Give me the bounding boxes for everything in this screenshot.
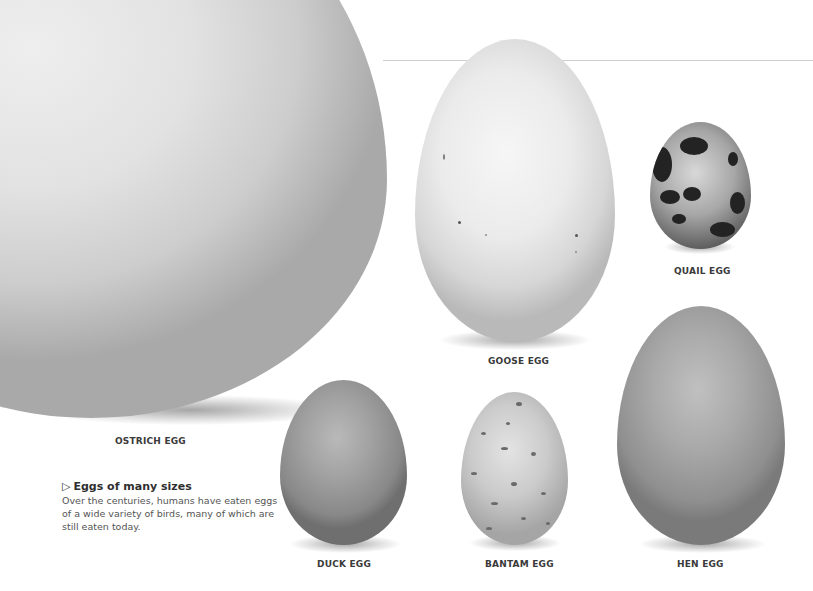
bantam-speck xyxy=(491,502,498,505)
bantam-egg-image xyxy=(461,392,568,545)
quail-spot xyxy=(660,190,680,204)
triangle-right-icon: ▷ xyxy=(62,480,70,493)
bantam-speck xyxy=(531,452,536,456)
quail-spot xyxy=(680,137,708,155)
quail-egg-label: QUAIL EGG xyxy=(674,266,731,276)
bantam-speck xyxy=(521,517,526,520)
caption-title: ▷Eggs of many sizes xyxy=(62,480,282,494)
bantam-egg-label: BANTAM EGG xyxy=(485,559,554,569)
bantam-speck xyxy=(546,522,550,525)
quail-spot xyxy=(683,187,701,201)
quail-egg-image xyxy=(650,122,751,249)
caption-title-text: Eggs of many sizes xyxy=(73,480,191,493)
hen-egg-image xyxy=(617,306,785,545)
ostrich-egg-label: OSTRICH EGG xyxy=(115,436,186,446)
bantam-speck xyxy=(506,422,510,425)
hen-egg-label: HEN EGG xyxy=(677,559,724,569)
bantam-speck xyxy=(481,432,486,435)
quail-spot xyxy=(672,214,686,224)
quail-spot xyxy=(728,152,738,166)
goose-egg-label: GOOSE EGG xyxy=(488,356,549,366)
egg-speck xyxy=(575,234,578,237)
quail-spot xyxy=(730,192,745,214)
egg-speck xyxy=(458,221,461,224)
bantam-speck xyxy=(471,472,477,475)
egg-speck xyxy=(485,234,487,236)
goose-egg-image xyxy=(415,39,615,342)
egg-speck xyxy=(575,251,577,253)
quail-spot xyxy=(710,222,735,237)
duck-egg-label: DUCK EGG xyxy=(317,559,371,569)
bantam-speck xyxy=(541,492,546,495)
header-rule xyxy=(383,60,813,61)
egg-speck xyxy=(443,154,445,160)
quail-spot xyxy=(652,147,672,182)
bantam-speck xyxy=(511,482,517,486)
caption-body: Over the centuries, humans have eaten eg… xyxy=(62,494,282,533)
figure-caption: ▷Eggs of many sizes Over the centuries, … xyxy=(62,480,282,533)
ostrich-egg-image xyxy=(0,0,387,418)
bantam-speck xyxy=(486,527,492,530)
bantam-speck xyxy=(516,402,522,406)
bantam-speck xyxy=(501,447,508,450)
